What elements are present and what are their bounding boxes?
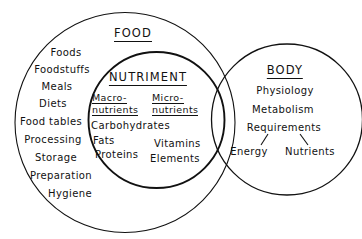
micronutrients-label-line1: Micro- — [152, 93, 184, 104]
micronutrient-vitamins: Vitamins — [154, 139, 201, 149]
food-item-hygiene: Hygiene — [48, 189, 92, 199]
venn-diagram: FOOD Foods Foodstuffs Meals Diets Food t… — [0, 0, 362, 239]
macronutrients-label-line2: nutrients — [92, 105, 138, 116]
food-item-foods: Foods — [50, 48, 81, 58]
macronutrients-label-line1: Macro- — [92, 93, 127, 104]
requirements-nutrients-connector — [300, 134, 308, 145]
body-title: BODY — [267, 65, 303, 79]
food-title: FOOD — [114, 28, 152, 42]
food-item-diets: Diets — [39, 99, 67, 109]
food-item-foodstuffs: Foodstuffs — [34, 65, 90, 75]
body-branch-nutrients: Nutrients — [285, 147, 335, 157]
body-branch-energy: Energy — [230, 147, 267, 157]
micronutrients-label-line2: nutrients — [152, 105, 198, 116]
requirements-energy-connector — [261, 134, 268, 145]
micronutrient-elements: Elements — [150, 154, 200, 164]
food-item-storage: Storage — [35, 153, 77, 163]
body-item-metabolism: Metabolism — [252, 105, 314, 115]
food-item-food-tables: Food tables — [20, 117, 82, 127]
body-item-requirements: Requirements — [247, 123, 321, 133]
macronutrient-proteins: Proteins — [95, 150, 138, 160]
food-item-meals: Meals — [42, 82, 73, 92]
macronutrient-carbohydrates: Carbohydrates — [91, 121, 170, 131]
body-item-physiology: Physiology — [256, 86, 314, 96]
food-item-preparation: Preparation — [30, 171, 92, 181]
macronutrient-fats: Fats — [93, 136, 115, 146]
food-item-processing: Processing — [24, 135, 81, 145]
nutriment-title: NUTRIMENT — [109, 72, 187, 86]
